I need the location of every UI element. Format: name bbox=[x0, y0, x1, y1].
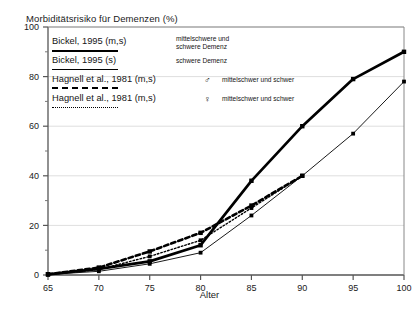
legend-entry-bickel-s: Bickel, 1995 (s) schwere Demenz bbox=[52, 55, 320, 74]
legend-entry-bickel-ms: Bickel, 1995 (m,s) mittelschwere und sch… bbox=[52, 36, 320, 55]
chart-legend: Bickel, 1995 (m,s) mittelschwere und sch… bbox=[52, 36, 320, 112]
legend-line-sample-fine-dotted bbox=[52, 107, 118, 108]
svg-text:100: 100 bbox=[24, 22, 39, 32]
legend-entry-hagnell-male: Hagnell et al., 1981 (m,s) ♂ mittelschwe… bbox=[52, 74, 320, 93]
svg-text:40: 40 bbox=[29, 171, 39, 181]
legend-description: mittelschwere und schwere Demenz bbox=[176, 35, 229, 50]
x-axis-title: Alter bbox=[0, 289, 419, 300]
legend-label: Hagnell et al., 1981 (m,s) bbox=[52, 93, 156, 103]
legend-description: schwere Demenz bbox=[176, 57, 227, 65]
legend-entry-hagnell-female: Hagnell et al., 1981 (m,s) ♀ mittelschwe… bbox=[52, 93, 320, 112]
svg-text:60: 60 bbox=[29, 121, 39, 131]
chart-figure: Morbiditätsrisiko für Demenzen (%) 02040… bbox=[0, 0, 419, 309]
svg-text:0: 0 bbox=[34, 270, 39, 280]
male-symbol-icon: ♂ bbox=[204, 75, 211, 85]
legend-description: mittelschwer und schwer bbox=[222, 76, 294, 84]
legend-line-sample-thick-dashed bbox=[52, 87, 118, 89]
svg-text:20: 20 bbox=[29, 221, 39, 231]
legend-line-sample-thin-solid bbox=[52, 69, 118, 70]
legend-description: mittelschwer und schwer bbox=[222, 95, 294, 103]
female-symbol-icon: ♀ bbox=[204, 94, 211, 104]
svg-text:80: 80 bbox=[29, 72, 39, 82]
legend-label: Hagnell et al., 1981 (m,s) bbox=[52, 74, 156, 84]
legend-line-sample-thick-solid bbox=[52, 50, 118, 52]
legend-label: Bickel, 1995 (s) bbox=[52, 55, 116, 65]
legend-label: Bickel, 1995 (m,s) bbox=[52, 36, 126, 46]
